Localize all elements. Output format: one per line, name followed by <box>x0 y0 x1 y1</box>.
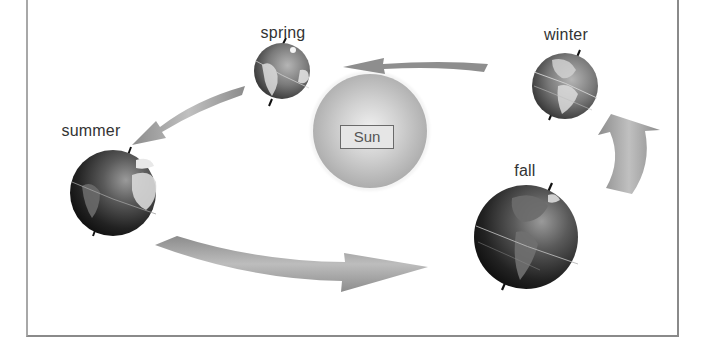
arrow-fall-to-winter <box>598 114 660 194</box>
arrow-spring-to-summer <box>132 86 245 145</box>
orbit-scene <box>0 0 707 341</box>
earth-globe-fall <box>474 183 578 290</box>
earth-globe-summer <box>70 147 156 236</box>
arrow-summer-to-fall <box>155 236 428 292</box>
season-label-spring: spring <box>261 24 306 42</box>
sun-label: Sun <box>340 125 394 149</box>
earth-globe-winter <box>532 50 598 120</box>
season-label-winter: winter <box>544 26 588 44</box>
earth-globe-spring <box>254 38 310 106</box>
season-label-summer: summer <box>62 122 121 140</box>
season-label-fall: fall <box>514 162 535 180</box>
